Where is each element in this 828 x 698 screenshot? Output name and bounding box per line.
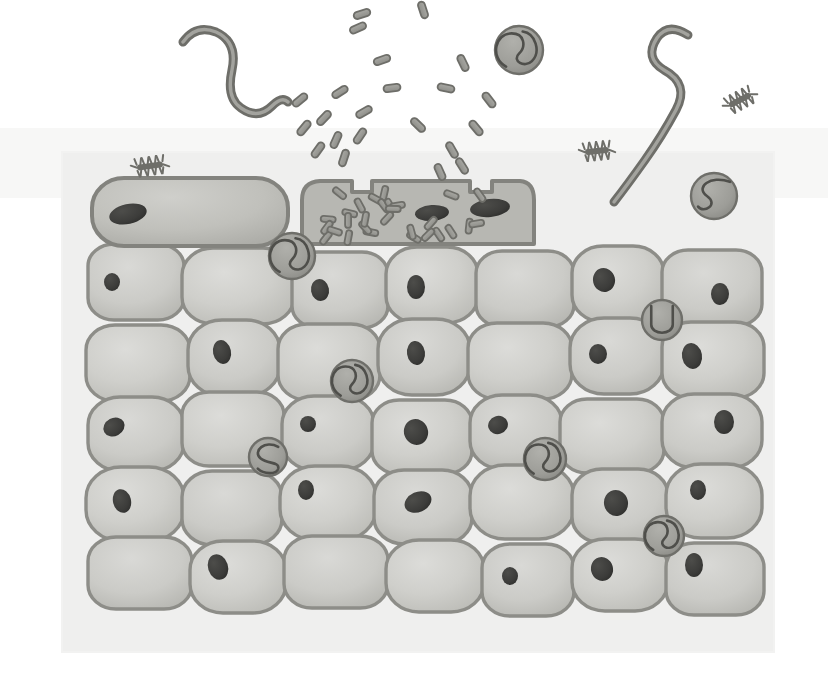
encysted-larva xyxy=(524,438,566,480)
encysted-larva xyxy=(495,26,543,74)
epithelial-cell xyxy=(88,537,192,609)
nucleus xyxy=(685,553,703,577)
epithelial-cell xyxy=(86,467,184,541)
epithelial-cell xyxy=(662,394,762,468)
bacillus xyxy=(469,219,485,227)
epithelial-cell xyxy=(188,320,280,396)
epithelium-infection-illustration xyxy=(0,0,828,698)
nucleus xyxy=(502,567,518,585)
epithelial-cell xyxy=(666,543,764,615)
epithelial-cell xyxy=(284,536,388,608)
bacillus xyxy=(386,206,401,212)
epithelial-cell xyxy=(86,325,190,401)
epithelial-cell xyxy=(190,541,286,613)
nucleus xyxy=(298,480,314,500)
epithelial-cell xyxy=(88,397,184,471)
epithelial-cell xyxy=(560,399,664,473)
surface-cell-intact xyxy=(92,178,288,246)
encysted-larva xyxy=(249,438,287,476)
epithelial-cell xyxy=(282,396,374,470)
nucleus xyxy=(300,416,316,432)
epithelial-cell xyxy=(468,323,572,399)
epithelial-cell xyxy=(372,400,472,474)
epithelial-cell xyxy=(476,251,574,327)
epithelial-cell xyxy=(482,544,574,616)
epithelial-cell xyxy=(88,244,184,320)
epithelial-cell xyxy=(280,466,376,540)
nucleus xyxy=(711,283,729,305)
bacillus xyxy=(383,83,401,92)
figure-canvas xyxy=(0,0,828,698)
nucleus xyxy=(690,480,706,500)
encysted-larva xyxy=(644,516,684,556)
surface-cell-layer xyxy=(92,178,534,246)
encysted-larva xyxy=(331,360,373,402)
encysted-larva xyxy=(269,233,315,279)
nucleus xyxy=(589,344,607,364)
nucleus xyxy=(104,273,120,291)
nucleus xyxy=(714,410,734,434)
encysted-larva xyxy=(642,300,682,340)
epithelial-cell xyxy=(386,540,484,612)
encysted-larva xyxy=(691,173,737,219)
epithelial-cell xyxy=(386,247,478,323)
nucleus xyxy=(407,275,425,299)
epithelial-cell xyxy=(378,319,470,395)
epithelial-cell xyxy=(182,471,282,545)
bacillus xyxy=(345,213,351,228)
surface-cell-ruptured-infected xyxy=(302,181,534,246)
epithelial-cell xyxy=(374,470,472,544)
